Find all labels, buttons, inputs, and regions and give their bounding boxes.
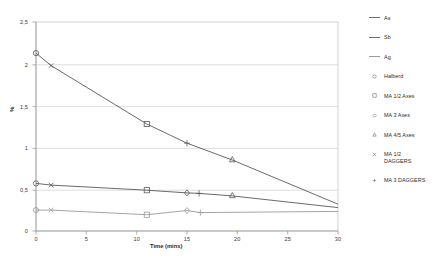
- x-tick-label: 20: [225, 236, 249, 242]
- legend-item-as[interactable]: As: [368, 14, 442, 34]
- legend-item-ma-1-2-axes[interactable]: MA 1/2 Axes: [368, 92, 442, 112]
- diamond-marker-icon: [368, 112, 384, 119]
- x-tick-label: 10: [125, 236, 149, 242]
- legend-item-ma-3-daggers[interactable]: MA 3 DAGGERS: [368, 177, 442, 197]
- x-tick-label: 30: [326, 236, 350, 242]
- chart-container: 2,5 2 1,5 1 0,5 0 0 5 10 15 20 25 30 % T…: [0, 0, 442, 263]
- legend-item-ma-4-5-axes[interactable]: MA 4/5 Axes: [368, 131, 442, 151]
- x-tick-label: 0: [24, 236, 48, 242]
- legend-label: Halberd: [384, 73, 403, 81]
- legend-label: MA 3 DAGGERS: [384, 177, 425, 185]
- legend-line-swatch-icon: [368, 14, 384, 21]
- chart-legend: As Sb Ag Halberd MA 1/2 Axes: [368, 14, 442, 196]
- y-tick-label: 0: [4, 228, 28, 234]
- legend-label: MA 3 Axes: [384, 112, 410, 120]
- legend-line-swatch-icon: [368, 34, 384, 41]
- legend-label: MA 1/2 Axes: [384, 92, 415, 100]
- x-axis: [36, 231, 338, 235]
- x-tick-label: 5: [74, 236, 98, 242]
- triangle-marker-icon: [368, 131, 384, 138]
- y-tick-label: 2,5: [4, 19, 28, 25]
- legend-item-ag[interactable]: Ag: [368, 53, 442, 73]
- legend-label: As: [384, 14, 390, 22]
- legend-item-halberd[interactable]: Halberd: [368, 73, 442, 93]
- circle-marker-icon: [368, 73, 384, 80]
- square-marker-icon: [368, 92, 384, 99]
- plot-frame: [36, 22, 338, 231]
- y-tick-label: 0,5: [4, 187, 28, 193]
- x-tick-label: 25: [276, 236, 300, 242]
- y-tick-label: 1: [4, 145, 28, 151]
- legend-item-ma-1-2-daggers[interactable]: MA 1/2 DAGGERS: [368, 151, 442, 177]
- x-axis-title: Time (mins): [150, 243, 182, 249]
- x-marker-icon: [368, 151, 384, 158]
- legend-line-swatch-icon: [368, 53, 384, 60]
- legend-label: MA 4/5 Axes: [384, 131, 415, 139]
- plus-marker-icon: [368, 177, 384, 184]
- legend-item-ma-3-axes[interactable]: MA 3 Axes: [368, 112, 442, 132]
- legend-label: MA 1/2 DAGGERS: [384, 151, 411, 166]
- legend-label: Sb: [384, 34, 391, 42]
- y-axis-title: %: [9, 107, 15, 112]
- legend-item-sb[interactable]: Sb: [368, 34, 442, 54]
- legend-label: Ag: [384, 53, 391, 61]
- y-tick-label: 2: [4, 62, 28, 68]
- x-tick-label: 15: [175, 236, 199, 242]
- y-tick-label: 1,5: [4, 104, 28, 110]
